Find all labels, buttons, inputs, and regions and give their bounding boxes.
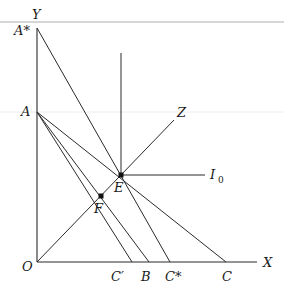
label-c: C [222,269,232,284]
budget-constraint-diagram: Y A* A O X C′ B C* C E F Z I 0 [0,0,284,292]
line-a-c [37,112,226,262]
ray-z [37,120,174,262]
label-i0-subscript: 0 [218,175,224,185]
label-z: Z [176,105,187,120]
point-f-marker [99,194,104,199]
y-axis-label: Y [32,7,42,22]
label-a: A [20,104,30,119]
label-c-star: C* [165,269,182,284]
x-axis-label: X [262,255,273,270]
label-f: F [93,201,104,216]
label-b: B [140,269,151,284]
label-i0: I [209,167,216,182]
label-e: E [113,180,124,195]
label-c-prime: C′ [111,269,124,284]
origin-label: O [22,259,33,274]
point-e-marker [119,173,124,178]
label-a-star: A* [13,23,30,38]
